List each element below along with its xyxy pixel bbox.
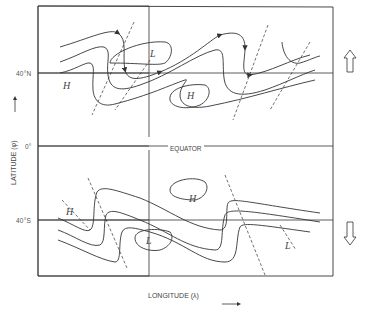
tick-label-40s: 40°S [16,217,31,224]
tick-label-0: 0° [25,143,32,150]
pressure-label-low: L [150,48,156,59]
poleward-arrow-south-icon [344,222,356,245]
y-axis-label: LATITUDE (φ) [10,141,17,185]
pressure-label-high: H [66,206,73,217]
equator-label: EQUATOR [168,145,204,152]
tick-label-40n: 40°N [16,70,31,77]
diagram-canvas-main [0,0,367,315]
pressure-label-high: H [187,90,194,101]
pressure-label-high: H [63,80,70,91]
pressure-label-low: L [285,240,291,251]
x-axis-label: LONGITUDE (λ) [148,292,199,299]
pressure-label-low: L [146,235,152,246]
pressure-label-high: H [189,193,196,204]
poleward-arrow-north-icon [344,50,356,72]
